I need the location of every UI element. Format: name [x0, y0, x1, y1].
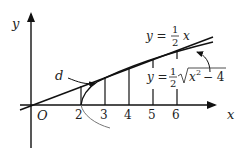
svg-text:2: 2 — [196, 68, 201, 77]
origin-label: O — [37, 108, 48, 123]
svg-text:x: x — [189, 70, 196, 84]
y-axis-label: y — [11, 16, 20, 31]
curve-equation: y = 1 2 x 2 − 4 — [146, 66, 226, 89]
tick-label-3: 3 — [100, 108, 108, 122]
x-axis-label: x — [227, 107, 235, 122]
svg-text:y =: y = — [146, 70, 168, 84]
tick-label-2: 2 — [75, 108, 83, 122]
svg-text:− 4: − 4 — [203, 70, 225, 84]
svg-text:2: 2 — [170, 78, 176, 89]
line-equation: y = 1 2 x — [145, 24, 190, 48]
svg-text:x: x — [183, 29, 190, 43]
tick-label-5: 5 — [148, 108, 156, 122]
diagram-canvas: y x O 2 3 4 5 6 d y = 1 2 x y = 1 2 x 2 … — [0, 0, 239, 157]
tick-label-4: 4 — [124, 108, 132, 122]
svg-text:1: 1 — [172, 24, 178, 35]
svg-text:1: 1 — [170, 66, 176, 77]
tick-label-6: 6 — [172, 108, 180, 122]
svg-text:y =: y = — [145, 29, 167, 43]
svg-text:2: 2 — [172, 37, 178, 48]
distance-label: d — [55, 68, 63, 83]
